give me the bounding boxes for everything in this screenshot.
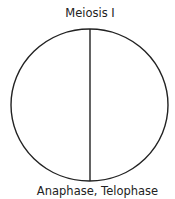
cell-diagram — [0, 0, 175, 199]
diagram-caption: Anaphase, Telophase — [10, 184, 175, 198]
